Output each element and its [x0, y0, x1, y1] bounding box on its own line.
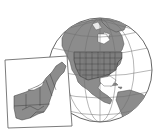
inset-map-northeast-us: [5, 56, 72, 128]
map-illustration: [0, 0, 155, 136]
